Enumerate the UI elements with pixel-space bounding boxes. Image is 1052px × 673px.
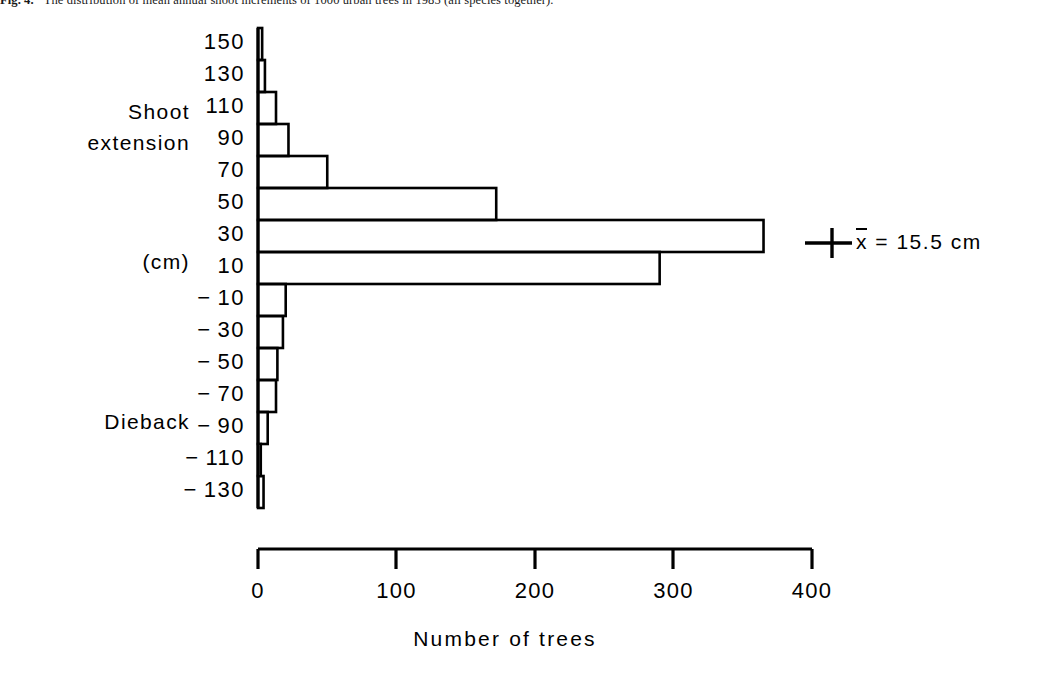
y-tick-label: 70 [135,157,245,183]
y-tick-label: 130 [135,61,245,87]
y-tick-label: 50 [135,189,245,215]
y-tick-label: − 110 [135,445,245,471]
mean-value-text: = 15.5 cm [868,230,982,253]
bar-series [258,28,764,508]
x-tick-label: 300 [629,578,719,604]
bar [258,92,276,124]
y-tick-label: − 10 [135,285,245,311]
y-tick-label: 150 [135,29,245,55]
mean-marker-icon [805,228,852,258]
bar [258,156,327,188]
bar [258,60,265,92]
bar [258,284,286,316]
x-axis-title: Number of trees [255,627,755,651]
x-tick-label: 100 [352,578,442,604]
y-tick-label: − 50 [135,349,245,375]
x-axis [258,549,812,569]
bar [258,28,262,60]
y-tick-label: − 30 [135,317,245,343]
y-tick-label: 110 [135,93,245,119]
bar [258,380,276,412]
bar [258,252,660,284]
y-tick-label: 30 [135,221,245,247]
bar [258,188,496,220]
y-tick-label: 90 [135,125,245,151]
bar [258,476,264,508]
y-tick-label: − 90 [135,413,245,439]
bar [258,348,277,380]
y-tick-label: 10 [135,253,245,279]
mean-symbol: x [856,228,868,254]
bar [258,316,283,348]
y-tick-label: − 130 [135,477,245,503]
x-tick-label: 400 [767,578,857,604]
bar [258,124,288,156]
x-tick-label: 0 [213,578,303,604]
mean-annotation: x = 15.5 cm [856,228,982,254]
x-tick-label: 200 [490,578,580,604]
bar [258,220,764,252]
y-tick-label: − 70 [135,381,245,407]
